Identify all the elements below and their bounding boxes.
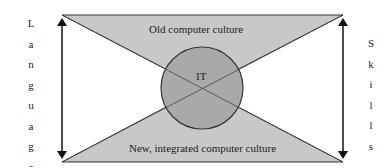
new-culture-label: New, integrated computer culture	[129, 142, 276, 154]
letter: g	[24, 136, 38, 157]
it-label: IT	[196, 70, 206, 82]
letter: L	[24, 13, 38, 34]
letter: u	[24, 95, 38, 116]
language-axis-label: L a n g u a g e	[24, 13, 38, 167]
letter: e	[24, 157, 38, 168]
letter: k	[364, 54, 378, 75]
letter: S	[364, 33, 378, 54]
letter: i	[364, 74, 378, 95]
letter: a	[24, 34, 38, 55]
old-culture-label: Old computer culture	[149, 23, 243, 35]
letter: n	[24, 54, 38, 75]
letter: a	[24, 116, 38, 137]
letter: s	[364, 136, 378, 157]
letter: l	[364, 115, 378, 136]
letter: g	[24, 75, 38, 96]
letter: l	[364, 95, 378, 116]
skills-axis-label: S k i l l s	[364, 33, 378, 156]
